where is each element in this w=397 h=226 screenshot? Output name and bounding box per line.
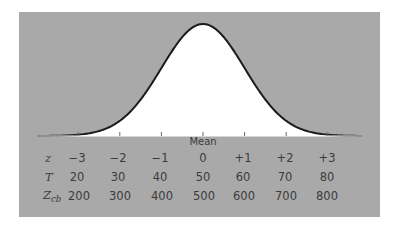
t-row-label: T: [45, 172, 53, 184]
zcb-value: 200: [68, 191, 90, 203]
z-value: −1: [152, 153, 169, 165]
z-value: −3: [69, 153, 86, 165]
z-value: −2: [110, 153, 127, 165]
t-value: 40: [153, 172, 168, 184]
t-value: 30: [111, 172, 126, 184]
z-value: +3: [319, 153, 336, 165]
t-value: 20: [70, 172, 85, 184]
t-value: 80: [320, 172, 335, 184]
t-value: 50: [196, 172, 211, 184]
z-row-label: z: [45, 153, 51, 165]
zcb-value: 300: [109, 191, 131, 203]
mean-label: Mean: [189, 137, 216, 147]
zcb-value: 500: [193, 191, 215, 203]
zcb-row-label: Zcb: [43, 190, 61, 204]
z-value: 0: [199, 153, 206, 165]
zcb-value: 400: [151, 191, 173, 203]
zcb-value: 600: [233, 191, 255, 203]
t-value: 70: [278, 172, 293, 184]
zcb-value: 700: [275, 191, 297, 203]
zcb-value: 800: [316, 191, 338, 203]
z-value: +2: [277, 153, 294, 165]
z-value: +1: [235, 153, 252, 165]
t-value: 60: [236, 172, 251, 184]
